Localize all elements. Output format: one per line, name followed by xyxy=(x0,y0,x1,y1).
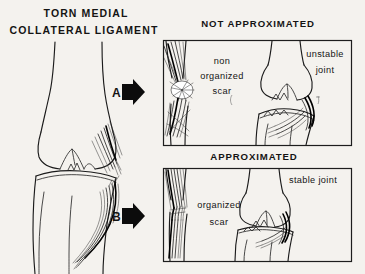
label-unstable-joint-line-1: unstable xyxy=(306,49,344,59)
label-non-organized-scar-line-1: non xyxy=(214,56,230,66)
label-organized-scar-line-2: scar xyxy=(210,217,229,227)
panel-title-approximated: APPROXIMATED xyxy=(210,151,297,162)
panel-title-not-approximated: NOT APPROXIMATED xyxy=(201,18,315,29)
figure-title-line-2: COLLATERAL LIGAMENT xyxy=(10,24,159,36)
figure-title-line-1: TORN MEDIAL xyxy=(44,7,129,19)
label-non-organized-scar-line-3: scar xyxy=(213,86,232,96)
label-non-organized-scar-line-2: organized xyxy=(200,71,244,81)
label-stable-joint: stable joint xyxy=(289,175,337,185)
label-organized-scar-line-1: organized xyxy=(197,200,241,210)
step-a-letter: A xyxy=(112,86,121,100)
step-b-letter: B xyxy=(112,210,121,224)
label-unstable-joint-line-2: joint xyxy=(315,65,335,75)
torn-mcl-diagram: TORN MEDIAL COLLATERAL LIGAMENT xyxy=(0,0,365,274)
